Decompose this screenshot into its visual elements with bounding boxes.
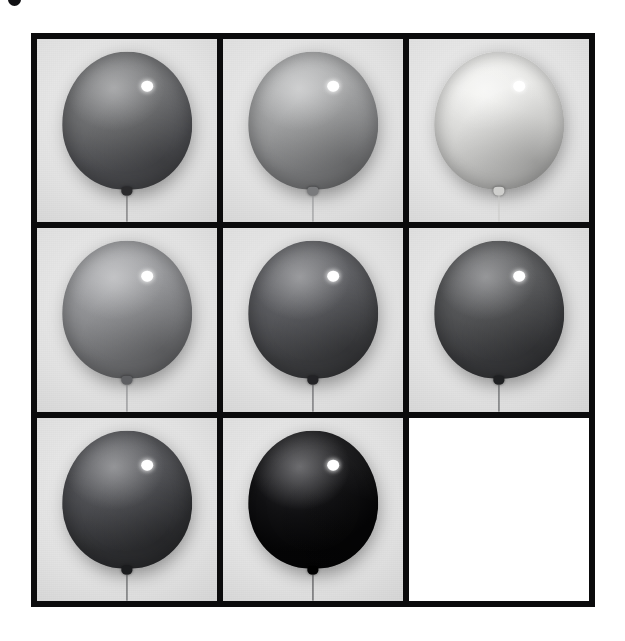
balloon-body <box>62 241 192 379</box>
balloon-balloon-mid-gray <box>62 241 192 388</box>
balloon-balloon-black <box>248 430 378 577</box>
balloon-body <box>62 430 192 568</box>
balloon-specular-highlight <box>141 270 153 281</box>
balloon-string <box>312 385 314 411</box>
grid-cell-balloon-medium-light-gray <box>223 39 403 222</box>
balloon-balloon-dark-gray <box>62 52 192 199</box>
balloon-specular-highlight <box>327 270 339 281</box>
balloon-body <box>62 52 192 190</box>
balloon-knot <box>493 376 505 385</box>
balloon-string <box>126 385 128 411</box>
balloon-specular-highlight <box>327 81 339 92</box>
balloon-body <box>434 241 564 379</box>
grid-cell-balloon-black <box>223 418 403 601</box>
balloon-knot <box>121 376 133 385</box>
balloon-balloon-medium-light-gray <box>248 52 378 199</box>
grid-cell-empty-cell <box>409 418 589 601</box>
grid-cell-balloon-dark-gray <box>37 39 217 222</box>
balloon-body <box>248 430 378 568</box>
balloon-rim-shading <box>62 52 192 190</box>
balloon-string <box>312 196 314 222</box>
grid-cell-balloon-charcoal-gray <box>409 228 589 411</box>
balloon-string <box>312 574 314 600</box>
balloon-specular-highlight <box>141 460 153 471</box>
balloon-rim-shading <box>434 52 564 190</box>
balloon-balloon-darker-gray <box>248 241 378 388</box>
balloon-balloon-deep-gray <box>62 430 192 577</box>
balloon-string <box>498 196 500 222</box>
balloon-specular-highlight <box>513 270 525 281</box>
balloon-specular-highlight <box>513 81 525 92</box>
balloon-string <box>126 196 128 222</box>
balloon-specular-highlight <box>327 460 339 471</box>
balloon-body <box>248 52 378 190</box>
grid-cell-balloon-mid-gray <box>37 228 217 411</box>
balloon-rim-shading <box>62 241 192 379</box>
balloon-knot <box>121 565 133 574</box>
balloon-balloon-charcoal-gray <box>434 241 564 388</box>
balloon-rim-shading <box>62 430 192 568</box>
balloon-rim-shading <box>248 430 378 568</box>
balloon-body <box>248 241 378 379</box>
balloon-rim-shading <box>434 241 564 379</box>
balloon-knot <box>493 187 505 196</box>
balloon-grid <box>31 33 595 607</box>
balloon-rim-shading <box>248 241 378 379</box>
grid-cell-balloon-darker-gray <box>223 228 403 411</box>
grid-cell-balloon-deep-gray <box>37 418 217 601</box>
balloon-knot <box>307 565 319 574</box>
balloon-string <box>126 574 128 600</box>
balloon-rim-shading <box>248 52 378 190</box>
balloon-string <box>498 385 500 411</box>
grid-cell-balloon-near-white <box>409 39 589 222</box>
balloon-knot <box>121 187 133 196</box>
balloon-specular-highlight <box>141 81 153 92</box>
balloon-body <box>434 52 564 190</box>
balloon-knot <box>307 376 319 385</box>
balloon-knot <box>307 187 319 196</box>
balloon-balloon-near-white <box>434 52 564 199</box>
cropped-glyph-mark <box>8 0 21 6</box>
